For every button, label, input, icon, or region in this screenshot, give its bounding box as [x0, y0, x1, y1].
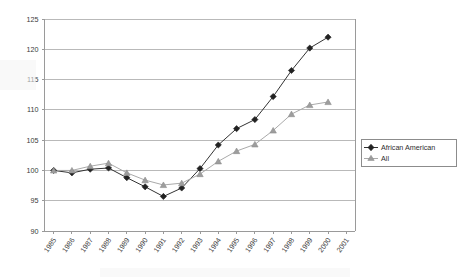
data-point-all-2000: [325, 99, 331, 105]
legend-label-african-american: African American: [381, 143, 435, 152]
chart-legend[interactable]: African American All: [362, 140, 457, 167]
x-tick-label-1996: 1996: [243, 236, 260, 254]
data-point-all-1995: [233, 148, 239, 154]
scan-artifact-left: [0, 60, 36, 90]
x-tick-group: 1985198619871988198919901991199219931994…: [42, 231, 351, 254]
x-tick-label-1989: 1989: [115, 236, 132, 254]
x-tick-label-1991: 1991: [152, 236, 169, 254]
x-tick-label-1999: 1999: [298, 236, 315, 254]
x-tick-label-1995: 1995: [225, 236, 242, 254]
y-tick-label-110: 110: [27, 105, 38, 114]
series-line-all: [54, 102, 328, 185]
x-tick-label-1998: 1998: [280, 236, 297, 254]
x-tick-label-1993: 1993: [188, 236, 205, 254]
data-point-african-american-1991: [160, 193, 166, 199]
data-point-all-1998: [288, 111, 294, 117]
y-tick-label-105: 105: [27, 136, 39, 145]
x-tick-label-1987: 1987: [78, 236, 95, 254]
line-chart: 9095100105110115120125 19851986198719881…: [0, 0, 461, 277]
data-point-african-american-1990: [142, 184, 148, 190]
x-tick-label-1986: 1986: [60, 236, 77, 254]
y-tick-label-125: 125: [27, 15, 39, 24]
x-tick-label-2001: 2001: [334, 236, 351, 254]
x-tick-label-1988: 1988: [97, 236, 114, 254]
data-point-all-1994: [215, 158, 221, 164]
series-markers-group: [50, 34, 331, 200]
chart-canvas: 9095100105110115120125 19851986198719881…: [0, 0, 461, 277]
data-point-african-american-2000: [325, 34, 331, 40]
x-tick-label-1990: 1990: [133, 236, 150, 254]
legend-label-all: All: [381, 154, 389, 163]
y-tick-label-100: 100: [27, 166, 39, 175]
x-tick-label-1985: 1985: [42, 236, 59, 254]
data-point-all-1988: [105, 160, 111, 166]
y-tick-label-90: 90: [31, 227, 39, 236]
series-lines-group: [54, 37, 328, 196]
x-tick-label-1997: 1997: [261, 236, 278, 254]
series-line-african-american: [54, 37, 328, 196]
y-tick-group: 9095100105110115120125: [27, 15, 45, 236]
scan-artifact-bottom: [100, 268, 350, 277]
y-tick-label-95: 95: [31, 196, 39, 205]
x-tick-label-1992: 1992: [170, 236, 187, 254]
x-tick-label-2000: 2000: [316, 236, 333, 254]
x-tick-label-1994: 1994: [206, 236, 223, 254]
data-point-all-1990: [142, 177, 148, 183]
y-tick-label-120: 120: [27, 45, 39, 54]
